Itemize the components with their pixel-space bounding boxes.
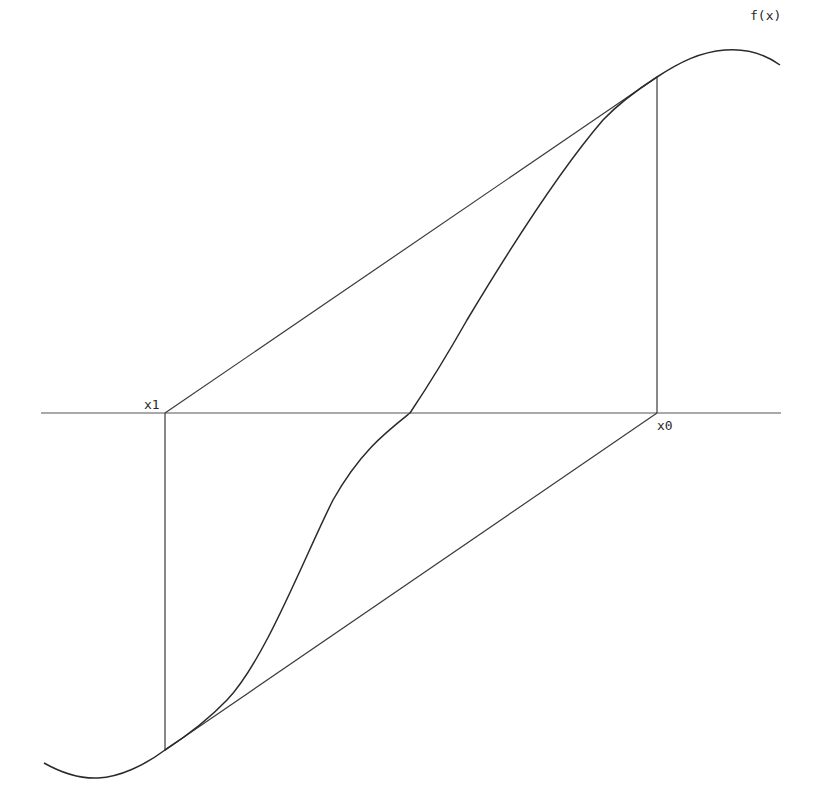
upper-secant-line	[165, 77, 657, 413]
function-curve	[44, 50, 780, 778]
x1-label: x1	[144, 397, 160, 412]
x0-label: x0	[657, 418, 673, 433]
function-label: f(x)	[750, 8, 781, 23]
lower-secant-line	[165, 413, 657, 750]
secant-diagram: f(x) x1 x0	[0, 0, 827, 811]
